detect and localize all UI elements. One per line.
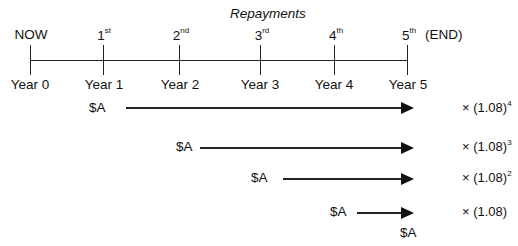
label-now: NOW bbox=[15, 27, 48, 42]
flow-4-factor: × (1.08) bbox=[462, 204, 507, 219]
timeline-axis bbox=[30, 60, 408, 61]
flow-2-amount: $A bbox=[176, 139, 193, 154]
label-year-2: Year 2 bbox=[161, 77, 200, 92]
tick-year-4 bbox=[334, 45, 335, 75]
label-repayment-1: 1st bbox=[97, 27, 111, 43]
flow-2-factor: × (1.08)3 bbox=[462, 139, 512, 154]
label-year-5: Year 5 bbox=[389, 77, 428, 92]
label-repayment-5: 5th bbox=[402, 27, 416, 43]
flow-2-arrow bbox=[200, 147, 402, 149]
flow-3-amount: $A bbox=[251, 170, 268, 185]
label-year-3: Year 3 bbox=[241, 77, 280, 92]
flow-1-amount: $A bbox=[89, 100, 106, 115]
label-year-1: Year 1 bbox=[85, 77, 124, 92]
tick-year-5 bbox=[407, 45, 408, 75]
label-year-0: Year 0 bbox=[11, 77, 50, 92]
flow-4-arrowhead-icon bbox=[401, 207, 414, 219]
flow-4-amount: $A bbox=[330, 204, 347, 219]
flow-1-factor: × (1.08)4 bbox=[462, 100, 512, 115]
final-amount: $A bbox=[400, 225, 417, 240]
flow-1-arrowhead-icon bbox=[401, 102, 414, 114]
flow-4-arrow bbox=[357, 212, 402, 214]
tick-year-0 bbox=[30, 45, 31, 75]
tick-year-3 bbox=[260, 45, 261, 75]
flow-3-factor: × (1.08)2 bbox=[462, 170, 512, 185]
tick-year-2 bbox=[179, 45, 180, 75]
diagram-title: Repayments bbox=[230, 6, 306, 21]
label-year-4: Year 4 bbox=[315, 77, 354, 92]
label-repayment-3: 3rd bbox=[255, 27, 270, 43]
flow-3-arrowhead-icon bbox=[401, 173, 414, 185]
flow-1-arrow bbox=[126, 107, 402, 109]
label-repayment-4: 4th bbox=[329, 27, 343, 43]
tick-year-1 bbox=[103, 45, 104, 75]
flow-3-arrow bbox=[283, 178, 403, 180]
label-end: (END) bbox=[425, 27, 463, 42]
label-repayment-2: 2nd bbox=[173, 27, 189, 43]
flow-2-arrowhead-icon bbox=[401, 142, 414, 154]
